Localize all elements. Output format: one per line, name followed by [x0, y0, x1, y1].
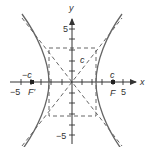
y-axis-label: y	[68, 3, 74, 13]
hyperbola-right-branch	[96, 14, 122, 147]
pos-c-label: c	[110, 70, 115, 80]
hyperbola-left-branch	[22, 14, 49, 147]
focus-left-point	[30, 80, 34, 84]
focus-right-point	[111, 80, 115, 84]
neg-c-label: −c	[22, 70, 32, 80]
focus-right-label: F	[110, 88, 116, 98]
x-tick-label-5: 5	[121, 87, 126, 97]
x-tick-label-neg5: −5	[10, 87, 20, 97]
focus-left-label: F′	[28, 87, 35, 97]
hyperbola-diagram: y x 5 −5 −5 5 −c c c F′ F	[0, 0, 155, 147]
x-axis-label: x	[139, 77, 145, 87]
y-tick-label-neg5: −5	[56, 131, 66, 141]
y-tick-label-5: 5	[63, 24, 68, 34]
c-hypotenuse-label: c	[80, 55, 85, 65]
